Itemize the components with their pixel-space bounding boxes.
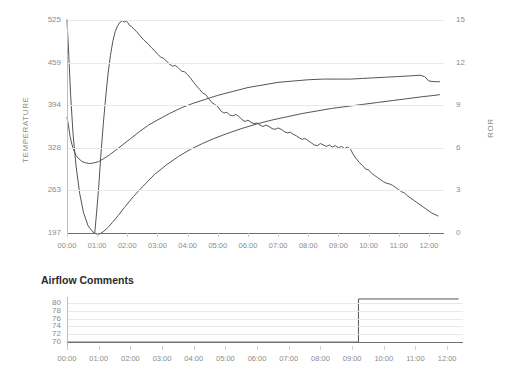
x-axis-tick-mark: [67, 346, 68, 350]
gridline: [67, 105, 444, 106]
x-axis-tick-label: 09:00: [322, 242, 354, 250]
y-axis-tick-label: 76: [27, 315, 61, 323]
gridline: [67, 326, 463, 327]
y-axis-tick-label: 525: [25, 16, 61, 24]
y-axis-tick-label: 74: [27, 322, 61, 330]
gridline: [67, 319, 463, 320]
x-axis-tick-label: 08:00: [292, 242, 324, 250]
gridline: [67, 63, 444, 64]
y-axis-tick-label: 78: [27, 307, 61, 315]
gridline: [67, 20, 444, 21]
x-axis-tick-mark: [415, 346, 416, 350]
x-axis-tick-label: 04:00: [178, 355, 210, 363]
x-axis-tick-mark: [67, 233, 68, 237]
x-axis-tick-label: 10:00: [368, 355, 400, 363]
y-axis-tick-label: 197: [25, 229, 61, 237]
y2-axis-tick-label: 3: [456, 186, 474, 194]
x-axis-tick-label: 00:00: [51, 242, 83, 250]
temperature-ror-chart: TEMPERATURE ROR 197263328394459525036912…: [0, 0, 511, 258]
x-axis-tick-mark: [352, 346, 353, 350]
x-axis-tick-label: 11:00: [383, 242, 415, 250]
y-axis-tick-label: 263: [25, 186, 61, 194]
x-axis-tick-mark: [278, 233, 279, 237]
y2-axis-tick-label: 9: [456, 101, 474, 109]
y2-axis-tick-label: 6: [456, 144, 474, 152]
x-axis-tick-mark: [399, 233, 400, 237]
x-axis-tick-label: 01:00: [81, 242, 113, 250]
x-axis-tick-mark: [99, 346, 100, 350]
x-axis-tick-mark: [447, 346, 448, 350]
y-axis-tick-label: 328: [25, 144, 61, 152]
series-line: [67, 75, 439, 163]
x-axis-tick-mark: [162, 346, 163, 350]
airflow-chart: Airflow Comments 70727476788000:0001:000…: [0, 262, 511, 382]
y-axis-tick-label: 70: [27, 338, 61, 346]
x-axis-tick-label: 11:00: [399, 355, 431, 363]
x-axis-tick-label: 08:00: [304, 355, 336, 363]
x-axis-tick-mark: [130, 346, 131, 350]
gridline: [67, 303, 463, 304]
x-axis-tick-label: 12:00: [431, 355, 463, 363]
y2-axis-tick-label: 15: [456, 16, 474, 24]
x-axis-tick-label: 02:00: [111, 242, 143, 250]
x-axis-tick-mark: [429, 233, 430, 237]
x-axis-tick-mark: [338, 233, 339, 237]
x-axis-tick-label: 07:00: [273, 355, 305, 363]
x-axis-tick-label: 06:00: [232, 242, 264, 250]
x-axis-tick-mark: [248, 233, 249, 237]
series-line: [67, 299, 458, 342]
x-axis-tick-label: 04:00: [172, 242, 204, 250]
main-plot-area: [67, 20, 444, 233]
x-axis-tick-label: 07:00: [262, 242, 294, 250]
x-axis-tick-label: 12:00: [413, 242, 445, 250]
x-axis-tick-mark: [194, 346, 195, 350]
x-axis-tick-label: 03:00: [141, 242, 173, 250]
x-axis-tick-mark: [127, 233, 128, 237]
x-axis-tick-mark: [384, 346, 385, 350]
x-axis-tick-mark: [218, 233, 219, 237]
gridline: [67, 148, 444, 149]
y2-axis-tick-label: 0: [456, 229, 474, 237]
x-axis-tick-label: 05:00: [202, 242, 234, 250]
y2-axis-tick-label: 12: [456, 59, 474, 67]
airflow-chart-title: Airflow Comments: [41, 274, 134, 286]
x-axis-tick-label: 03:00: [146, 355, 178, 363]
series-line: [67, 20, 439, 234]
x-axis-tick-label: 01:00: [83, 355, 115, 363]
y-axis-tick-label: 459: [25, 59, 61, 67]
x-axis-tick-label: 09:00: [336, 355, 368, 363]
x-axis-tick-label: 02:00: [114, 355, 146, 363]
gridline: [67, 311, 463, 312]
x-axis-tick-mark: [320, 346, 321, 350]
y-axis-title-ror: ROR: [486, 118, 495, 138]
x-axis-tick-label: 05:00: [209, 355, 241, 363]
airflow-plot-area: [67, 297, 463, 346]
gridline: [67, 334, 463, 335]
x-axis-tick-mark: [369, 233, 370, 237]
gridline: [67, 190, 444, 191]
x-axis-tick-label: 06:00: [241, 355, 273, 363]
y-axis-line: [67, 20, 68, 233]
x-axis-tick-mark: [225, 346, 226, 350]
gridline: [67, 342, 463, 343]
airflow-chart-svg: [67, 297, 463, 346]
y-axis-tick-label: 80: [27, 299, 61, 307]
x-axis-tick-mark: [188, 233, 189, 237]
x-axis-tick-mark: [257, 346, 258, 350]
roast-profile-screen: TEMPERATURE ROR 197263328394459525036912…: [0, 0, 511, 382]
y-axis-tick-label: 394: [25, 101, 61, 109]
y-axis-line: [67, 297, 68, 346]
x-axis-tick-mark: [157, 233, 158, 237]
y-axis-tick-label: 72: [27, 330, 61, 338]
x-axis-tick-mark: [97, 233, 98, 237]
main-chart-svg: [67, 20, 444, 233]
x-axis-tick-mark: [289, 346, 290, 350]
gridline: [67, 233, 444, 234]
x-axis-tick-label: 10:00: [353, 242, 385, 250]
x-axis-tick-label: 00:00: [51, 355, 83, 363]
x-axis-tick-mark: [308, 233, 309, 237]
